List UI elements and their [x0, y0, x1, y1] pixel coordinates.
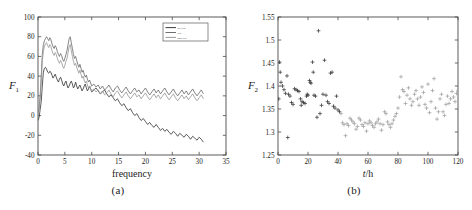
panel-b: 0204060801001201.251.31.351.41.451.51.55… [236, 0, 472, 210]
x-tick-label: 10 [88, 158, 96, 166]
x-tick-label: 20 [142, 158, 150, 166]
y-tick-label: 0 [31, 112, 35, 120]
y-tick-label: 1.3 [266, 129, 275, 137]
y-tick-label: 80 [27, 33, 35, 41]
y-tick-label: 100 [24, 14, 35, 22]
y-tick-label: 60 [27, 53, 35, 61]
x-tick-label: 15 [115, 158, 123, 166]
x-tick-label: 30 [196, 158, 204, 166]
figure-container: 05101520253035-40-20020406080100F1freque… [0, 0, 472, 210]
y-tick-label: 1.35 [262, 106, 275, 114]
panel-a-plot: 05101520253035-40-20020406080100F1freque… [0, 0, 236, 210]
y-tick-label: 1.55 [262, 14, 275, 22]
y-tick-label: 1.25 [262, 152, 275, 160]
legend-label-1: pre-test [178, 27, 186, 30]
panel-a-caption: (a) [0, 184, 236, 196]
legend-label-3: post-test [178, 37, 187, 40]
panel-b-plot: 0204060801001201.251.31.351.41.451.51.55… [236, 0, 472, 210]
x-axis-label: frequency [112, 168, 152, 179]
x-tick-label: 0 [36, 158, 40, 166]
x-tick-label: 5 [63, 158, 67, 166]
y-tick-label: 1.5 [266, 37, 275, 45]
y-axis-label: F2 [247, 79, 259, 94]
y-tick-label: -20 [25, 132, 35, 140]
y-tick-label: -40 [25, 152, 35, 160]
x-tick-label: 80 [394, 158, 402, 166]
y-tick-label: 1.45 [262, 60, 275, 68]
panel-a: 05101520253035-40-20020406080100F1freque… [0, 0, 236, 210]
x-tick-label: 35 [222, 158, 230, 166]
x-axis-label: t/h [363, 168, 374, 179]
x-tick-label: 25 [169, 158, 177, 166]
x-tick-label: 60 [364, 158, 372, 166]
y-tick-label: 40 [27, 73, 35, 81]
y-tick-label: 1.4 [266, 83, 275, 91]
y-axis-label: F1 [8, 79, 20, 94]
plot-frame [278, 17, 458, 155]
panel-b-caption: (b) [236, 184, 472, 196]
legend-label-2: test [178, 32, 182, 35]
x-tick-label: 100 [423, 158, 434, 166]
y-tick-label: 20 [27, 92, 35, 100]
x-tick-label: 40 [334, 158, 342, 166]
x-tick-label: 120 [453, 158, 464, 166]
x-tick-label: 0 [276, 158, 280, 166]
x-tick-label: 20 [304, 158, 312, 166]
